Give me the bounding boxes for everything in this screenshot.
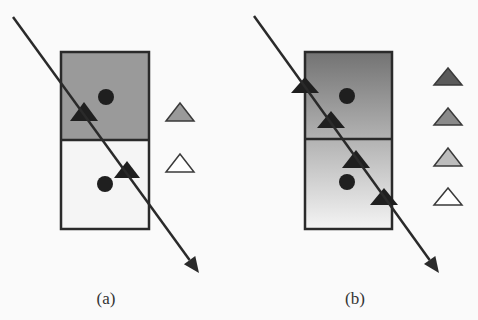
legend-triangle (166, 103, 194, 121)
dot-marker (339, 88, 355, 104)
dot-marker (339, 174, 355, 190)
panel-a (13, 17, 199, 273)
legend-triangle (434, 188, 462, 205)
arrow-head-icon (424, 256, 439, 273)
caption-b: (b) (345, 289, 365, 309)
diagram-canvas (0, 0, 478, 320)
dot-marker (97, 176, 113, 192)
legend-triangle (434, 148, 462, 166)
legend-triangle (434, 68, 462, 85)
legend-triangle (434, 108, 462, 125)
caption-a: (a) (97, 289, 116, 309)
dot-marker (98, 89, 114, 105)
panel-b (254, 16, 462, 273)
arrow-head-icon (184, 256, 199, 273)
legend-triangle (166, 154, 194, 172)
